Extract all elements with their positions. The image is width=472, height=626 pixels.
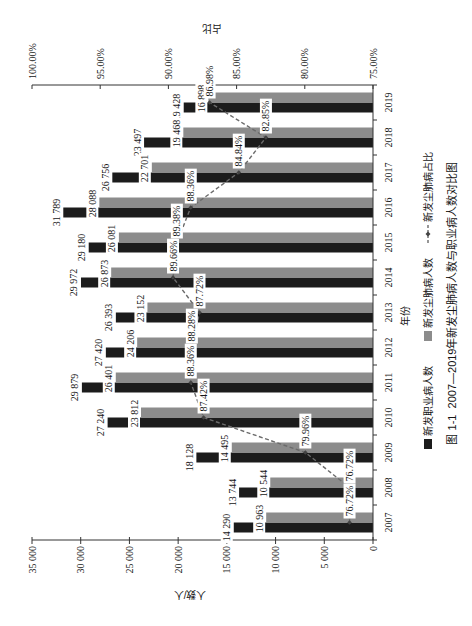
value-label-pneumoconiosis-2012: 24 206 [125, 330, 136, 358]
bar-occupational-disease-2013 [116, 313, 373, 323]
ratio-label-2011: 88.36% [185, 346, 196, 377]
y2-tick-label: 85.00% [231, 48, 242, 79]
y-tick-label: 25 000 [124, 546, 135, 574]
value-label-pneumoconiosis-2009: 14 495 [219, 435, 230, 463]
value-label-pneumoconiosis-2008: 10 544 [258, 470, 269, 498]
combo-bar-line-chart: 05 00010 00015 00020 00025 00030 00035 0… [0, 0, 472, 626]
value-label-occupational-disease-2017: 26 756 [100, 164, 111, 192]
value-label-occupational-disease-2007: 14 290 [221, 514, 232, 542]
x-tick-label-2016: 2016 [383, 198, 394, 218]
x-tick-label-2018: 2018 [383, 128, 394, 148]
figure-caption: 图 1-1 2007—2019年新发尘肺病人数与职业病人数对比图 [445, 161, 458, 444]
y-tick-label: 5 000 [319, 546, 330, 569]
x-tick-label-2013: 2013 [383, 303, 394, 323]
bar-pneumoconiosis-2011 [116, 373, 373, 383]
ratio-label-2017: 84.84% [233, 136, 244, 167]
bar-occupational-disease-2011 [82, 383, 373, 393]
bar-pneumoconiosis-2008 [270, 478, 373, 488]
legend-label-pneumoconiosis-ratio: 新发尘肺病占比 [422, 152, 434, 222]
y2-tick-label: 100.00% [27, 43, 38, 79]
bar-pneumoconiosis-2019 [208, 93, 373, 103]
value-label-occupational-disease-2019: 19 428 [171, 94, 182, 122]
bar-pneumoconiosis-2018 [183, 128, 373, 138]
x-tick-label-2008: 2008 [383, 478, 394, 498]
ratio-label-2013: 87.72% [194, 276, 205, 307]
value-label-occupational-disease-2010: 27 240 [95, 409, 106, 437]
value-label-occupational-disease-2013: 26 393 [103, 304, 114, 332]
value-label-occupational-disease-2012: 27 420 [93, 339, 104, 367]
value-label-pneumoconiosis-2016: 28 088 [87, 190, 98, 218]
ratio-label-2009: 79.96% [300, 416, 311, 447]
ratio-label-2019: 86.98% [204, 66, 215, 97]
value-label-occupational-disease-2015: 29 180 [76, 234, 87, 262]
y-tick-label: 35 000 [27, 546, 38, 574]
x-tick-label-2009: 2009 [383, 443, 394, 463]
bar-pneumoconiosis-2012 [137, 338, 373, 348]
bar-occupational-disease-2016 [63, 208, 373, 218]
y2-tick-label: 90.00% [163, 48, 174, 79]
bar-occupational-disease-2014 [81, 278, 373, 288]
x-tick-label-2015: 2015 [383, 233, 394, 253]
value-label-occupational-disease-2016: 31 789 [51, 199, 62, 227]
bar-occupational-disease-2017 [112, 173, 373, 183]
ratio-label-2016: 88.36% [185, 171, 196, 202]
ratio-label-2012: 88.28% [186, 311, 197, 342]
ratio-label-2007: 76.72% [344, 486, 355, 517]
value-label-pneumoconiosis-2007: 10 963 [254, 505, 265, 533]
y2-tick-label: 95.00% [95, 48, 106, 79]
value-label-occupational-disease-2008: 13 744 [227, 479, 238, 507]
bar-pneumoconiosis-2015 [119, 233, 373, 243]
legend-label-occupational-disease: 新发职业病人数 [422, 366, 434, 436]
ratio-label-2015: 89.38% [171, 206, 182, 237]
y-tick-label: 30 000 [75, 546, 86, 574]
ratio-label-2008: 76.72% [344, 451, 355, 482]
bar-pneumoconiosis-2014 [111, 268, 373, 278]
y2-axis-title: 占比 [202, 23, 222, 35]
bar-pneumoconiosis-2013 [147, 303, 373, 313]
x-tick-label-2019: 2019 [383, 93, 394, 113]
bar-occupational-disease-2010 [108, 418, 373, 428]
x-tick-label-2010: 2010 [383, 408, 394, 428]
x-tick-label-2012: 2012 [383, 338, 394, 358]
bar-occupational-disease-2019 [184, 103, 373, 113]
x-tick-label-2017: 2017 [383, 163, 394, 183]
value-label-pneumoconiosis-2014: 26 873 [99, 260, 110, 288]
value-label-pneumoconiosis-2015: 26 081 [106, 225, 117, 253]
value-label-pneumoconiosis-2013: 23 152 [135, 295, 146, 323]
bar-pneumoconiosis-2016 [99, 198, 373, 208]
y-tick-label: 15 000 [221, 546, 232, 574]
ratio-label-2010: 87.42% [198, 381, 209, 412]
legend: 新发职业病人数 新发尘肺病人数 新发尘肺病占比 [422, 152, 434, 449]
y-tick-label: 10 000 [270, 546, 281, 574]
value-label-occupational-disease-2014: 29 972 [68, 269, 79, 297]
value-label-occupational-disease-2018: 23 497 [132, 129, 143, 157]
bar-occupational-disease-2015 [89, 243, 373, 253]
bar-occupational-disease-2012 [106, 348, 373, 358]
value-label-occupational-disease-2011: 29 879 [69, 374, 80, 402]
y-axis-title: 人数/人 [174, 589, 207, 601]
value-label-pneumoconiosis-2010: 23 812 [129, 400, 140, 428]
ratio-label-2018: 82.85% [260, 101, 271, 132]
bar-pneumoconiosis-2007 [266, 513, 373, 523]
x-tick-label-2007: 2007 [383, 513, 394, 533]
value-label-pneumoconiosis-2018: 19 468 [171, 120, 182, 148]
rotated-figure: 05 00010 00015 00020 00025 00030 00035 0… [0, 0, 472, 626]
y2-tick-label: 75.00% [368, 48, 379, 79]
y2-tick-label: 80.00% [299, 48, 310, 79]
x-tick-label-2014: 2014 [383, 268, 394, 288]
ratio-label-2014: 89.66% [168, 241, 179, 272]
value-label-pneumoconiosis-2011: 26 401 [103, 365, 114, 393]
x-axis-title: 年份 [399, 306, 411, 326]
legend-key-pneumoconiosis [424, 331, 432, 341]
value-label-occupational-disease-2009: 18 128 [184, 444, 195, 472]
legend-label-pneumoconiosis: 新发尘肺病人数 [422, 258, 434, 328]
y-tick-label: 20 000 [173, 546, 184, 574]
legend-diamond-marker-icon [426, 232, 431, 237]
x-tick-label-2011: 2011 [383, 373, 394, 393]
y-tick-label: 0 [368, 546, 379, 551]
legend-key-occupational-disease [424, 439, 432, 449]
bar-pneumoconiosis-2010 [141, 408, 373, 418]
value-label-pneumoconiosis-2017: 22 701 [139, 155, 150, 183]
